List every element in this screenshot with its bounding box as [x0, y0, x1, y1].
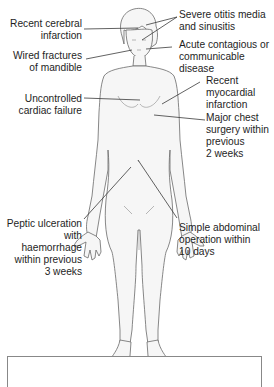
torso	[87, 66, 192, 344]
label-recent-cerebral-infarction: Recent cerebral infarction	[4, 18, 82, 42]
label-severe-otitis-media: Severe otitis media and sinusitis	[179, 9, 274, 33]
neck	[133, 56, 146, 66]
leader-mandible	[86, 50, 132, 59]
label-peptic-ulceration: Peptic ulceration with haemorrhage withi…	[2, 218, 82, 278]
label-simple-abdominal-operation: Simple abdominal operation within 10 day…	[179, 222, 274, 258]
label-recent-myocardial-infarction: Recent myocardial infarction	[206, 75, 274, 111]
label-acute-contagious-disease: Acute contagious or communicable disease	[179, 39, 274, 75]
caption-box	[7, 356, 262, 387]
label-major-chest-surgery: Major chest surgery within previous 2 we…	[206, 112, 274, 160]
label-wired-fractures-mandible: Wired fractures of mandible	[4, 50, 82, 74]
head	[126, 29, 153, 58]
label-uncontrolled-cardiac-failure: Uncontrolled cardiac failure	[4, 93, 82, 117]
